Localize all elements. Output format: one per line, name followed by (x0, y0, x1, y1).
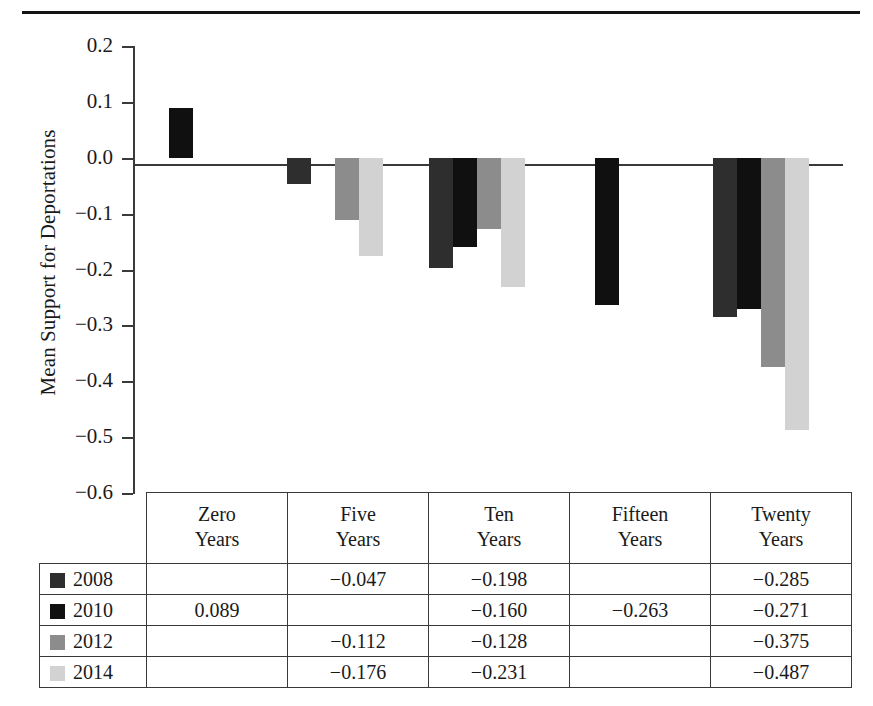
table-header-line-1: Ten (429, 502, 569, 527)
y-tick: −0.2 (122, 270, 133, 272)
legend-cell: 2008 (40, 564, 147, 595)
bar (287, 158, 311, 184)
legend-swatch-icon (50, 573, 65, 588)
bar (501, 158, 525, 287)
table-cell: −0.112 (288, 626, 429, 657)
table-cell: −0.128 (429, 626, 570, 657)
top-horizontal-rule (22, 11, 860, 14)
table-header-cell: ZeroYears (147, 493, 288, 564)
table-cell (288, 595, 429, 626)
table-row: 2014−0.176−0.231−0.487 (40, 657, 852, 688)
legend-cell: 2014 (40, 657, 147, 688)
bar (737, 158, 761, 309)
table-cell: −0.487 (711, 657, 852, 688)
legend-cell: 2010 (40, 595, 147, 626)
table-cell (570, 626, 711, 657)
y-tick-label: −0.2 (75, 257, 113, 281)
table-cell: −0.271 (711, 595, 852, 626)
bar (453, 158, 477, 247)
table-header-cell: FiveYears (288, 493, 429, 564)
table-header-line-1: Fifteen (570, 502, 710, 527)
table-cell: 0.089 (147, 595, 288, 626)
legend-swatch-icon (50, 666, 65, 681)
legend-cell: 2012 (40, 626, 147, 657)
bar (335, 158, 359, 221)
table-cell: −0.285 (711, 564, 852, 595)
plot-area: 0.20.10.0−0.1−0.2−0.3−0.4−0.5−0.6 (133, 46, 843, 493)
bar (359, 158, 383, 256)
y-tick: −0.3 (122, 325, 133, 327)
y-tick: 0.2 (122, 46, 133, 48)
table-cell (570, 564, 711, 595)
bar (169, 108, 193, 158)
legend-swatch-icon (50, 604, 65, 619)
table-cell: −0.198 (429, 564, 570, 595)
legend-series-label: 2008 (73, 567, 113, 592)
table-header-cell: TenYears (429, 493, 570, 564)
table-header-cell: FifteenYears (570, 493, 711, 564)
y-tick-label: 0.1 (87, 89, 113, 113)
table-header-line-1: Twenty (711, 502, 851, 527)
table-cell (147, 626, 288, 657)
y-tick-label: −0.1 (75, 201, 113, 225)
y-tick-label: 0.2 (87, 33, 113, 57)
table-header-line-2: Years (570, 527, 710, 552)
y-tick-label: −0.3 (75, 312, 113, 336)
table-header-line-1: Zero (147, 502, 287, 527)
legend-series-label: 2010 (73, 598, 113, 623)
y-tick: 0.1 (122, 102, 133, 104)
bar (713, 158, 737, 317)
bar (429, 158, 453, 269)
y-tick: −0.1 (122, 214, 133, 216)
table-row: 20100.089−0.160−0.263−0.271 (40, 595, 852, 626)
table-header-cell: TwentyYears (711, 493, 852, 564)
table-cell: −0.160 (429, 595, 570, 626)
table-header-row: ZeroYearsFiveYearsTenYearsFifteenYearsTw… (40, 493, 852, 564)
y-tick: −0.4 (122, 381, 133, 383)
y-tick: 0.0 (122, 158, 133, 160)
table-header-line-1: Five (288, 502, 428, 527)
data-table: ZeroYearsFiveYearsTenYearsFifteenYearsTw… (39, 492, 852, 688)
legend-series-label: 2012 (73, 629, 113, 654)
table-row: 2012−0.112−0.128−0.375 (40, 626, 852, 657)
table-header-line-2: Years (711, 527, 851, 552)
table-cell: −0.047 (288, 564, 429, 595)
legend-series-label: 2014 (73, 660, 113, 685)
table-cell: −0.176 (288, 657, 429, 688)
table-row: 2008−0.047−0.198−0.285 (40, 564, 852, 595)
bar (595, 158, 619, 305)
bar (477, 158, 501, 230)
legend-swatch-icon (50, 635, 65, 650)
table-cell: −0.231 (429, 657, 570, 688)
table-cell: −0.263 (570, 595, 711, 626)
table-header-line-2: Years (147, 527, 287, 552)
bar (785, 158, 809, 430)
table-cell (147, 657, 288, 688)
bar (761, 158, 785, 368)
y-axis-title: Mean Support for Deportations (38, 53, 59, 473)
table-cell: −0.375 (711, 626, 852, 657)
table-header-line-2: Years (288, 527, 428, 552)
table-cell (147, 564, 288, 595)
y-tick: −0.5 (122, 437, 133, 439)
y-tick-label: 0.0 (87, 145, 113, 169)
table-header-line-2: Years (429, 527, 569, 552)
figure-container: Mean Support for Deportations 0.20.10.0−… (0, 0, 873, 706)
header-blank-cell (40, 493, 147, 564)
y-tick-label: −0.5 (75, 424, 113, 448)
y-tick-label: −0.4 (75, 368, 113, 392)
table-cell (570, 657, 711, 688)
